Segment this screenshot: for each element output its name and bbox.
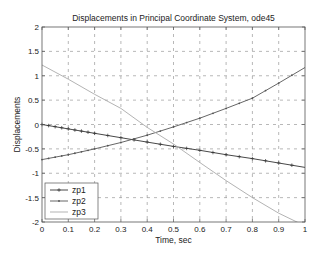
marker-dot xyxy=(94,148,96,150)
y-tick-label: 0 xyxy=(35,121,40,130)
marker-dot xyxy=(225,108,227,110)
marker-dot xyxy=(212,112,214,114)
x-tick-label: 0.6 xyxy=(194,225,206,234)
x-tick-label: 0.3 xyxy=(115,225,127,234)
legend: zp1zp2zp3 xyxy=(45,183,98,219)
y-tick-label: -2 xyxy=(32,218,40,227)
marker-dot xyxy=(186,122,188,124)
x-tick-label: 1 xyxy=(303,225,308,234)
marker-dot xyxy=(133,138,135,140)
marker-dot xyxy=(74,152,76,154)
y-tick-label: -1 xyxy=(32,169,40,178)
x-tick-label: 0.4 xyxy=(142,225,154,234)
marker-dot xyxy=(238,102,240,104)
y-tick-label: 1.5 xyxy=(28,47,40,56)
legend-label-zp1: zp1 xyxy=(72,185,86,195)
x-tick-label: 0 xyxy=(40,225,45,234)
x-tick-label: 0.8 xyxy=(247,225,259,234)
chart-title: Displacements in Principal Coordinate Sy… xyxy=(72,13,275,23)
marker-dot xyxy=(120,142,122,144)
x-tick-label: 0.1 xyxy=(63,225,75,234)
marker-dot xyxy=(48,157,50,159)
x-tick-label: 0.9 xyxy=(273,225,285,234)
marker-dot xyxy=(159,130,161,132)
legend-label-zp2: zp2 xyxy=(72,196,86,206)
marker-dot xyxy=(61,155,63,157)
marker-dot xyxy=(252,97,254,99)
marker-dot xyxy=(173,126,175,128)
y-tick-label: -0.5 xyxy=(25,145,39,154)
x-tick-label: 0.7 xyxy=(221,225,233,234)
marker-dot xyxy=(67,154,69,156)
marker-dot xyxy=(81,151,83,153)
marker-dot xyxy=(278,82,280,84)
y-tick-label: 0.5 xyxy=(28,96,40,105)
legend-label-zp3: zp3 xyxy=(72,207,86,217)
marker-dot xyxy=(199,117,201,119)
y-tick-label: -1.5 xyxy=(25,194,39,203)
marker-dot xyxy=(291,74,293,76)
marker-dot xyxy=(146,134,148,136)
x-axis-label: Time, sec xyxy=(155,235,192,245)
marker-dot xyxy=(265,90,267,92)
y-tick-label: 1 xyxy=(35,72,40,81)
x-tick-label: 0.5 xyxy=(168,225,180,234)
marker-dot xyxy=(54,156,56,158)
marker-dot xyxy=(87,149,89,151)
chart: 00.10.20.30.40.50.60.70.80.9121.510.50-0… xyxy=(0,0,321,254)
y-axis-label: Displacements xyxy=(12,97,22,153)
x-tick-label: 0.2 xyxy=(89,225,101,234)
marker-dot xyxy=(107,145,109,147)
y-tick-label: 2 xyxy=(35,23,40,32)
plot-area: 00.10.20.30.40.50.60.70.80.9121.510.50-0… xyxy=(0,0,321,254)
